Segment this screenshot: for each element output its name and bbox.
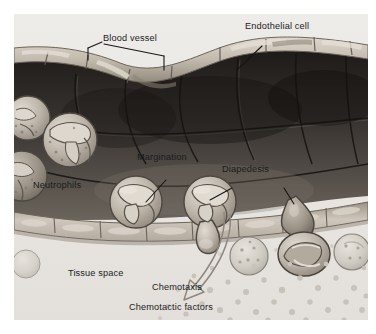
tissue-cell [14,250,40,278]
label-chemotaxis: Chemotaxis [152,283,202,292]
label-chemotactic-factors: Chemotactic factors [129,303,213,312]
marginating-neutrophil [110,176,162,228]
label-diapedesis: Diapedesis [222,165,269,174]
figure-canvas: Blood vessel Endothelial cell Marginatio… [0,0,376,334]
label-endothelial-cell: Endothelial cell [245,22,309,31]
tissue-cell [230,237,268,275]
label-margination: Margination [137,153,187,162]
tissue-cell [334,234,368,270]
label-tissue-space: Tissue space [68,269,124,278]
label-neutrophils: Neutrophils [33,181,81,190]
circulating-neutrophil [43,113,97,167]
label-blood-vessel: Blood vessel [103,34,157,43]
